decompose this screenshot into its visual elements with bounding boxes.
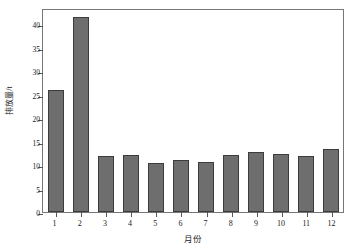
bar[interactable] <box>98 156 114 212</box>
x-tick-label: 1 <box>43 219 67 228</box>
x-tick-mark <box>106 212 107 217</box>
x-tick-label: 10 <box>269 219 293 228</box>
x-tick-label: 8 <box>219 219 243 228</box>
x-tick-mark <box>181 212 182 217</box>
x-tick-label: 2 <box>68 219 92 228</box>
bar-slot <box>168 10 193 212</box>
bar-slot <box>68 10 93 212</box>
x-tick-label: 12 <box>319 219 343 228</box>
bar-slot <box>268 10 293 212</box>
bar-slot <box>293 10 318 212</box>
x-tick-mark <box>332 212 333 217</box>
y-tick-label: 20 <box>33 115 41 124</box>
y-tick-label: 15 <box>33 139 41 148</box>
bar-chart-figure: 排放量/t 0510152025303540 123456789101112 月… <box>0 0 355 249</box>
x-tick-label: 6 <box>168 219 192 228</box>
bar-slot <box>43 10 68 212</box>
bar[interactable] <box>148 163 164 212</box>
bar[interactable] <box>173 160 189 212</box>
x-tick-mark <box>257 212 258 217</box>
bar-slot <box>118 10 143 212</box>
x-tick-label: 4 <box>118 219 142 228</box>
y-tick-label: 0 <box>36 209 40 218</box>
x-tick-mark <box>156 212 157 217</box>
x-tick-label: 11 <box>294 219 318 228</box>
y-tick-label: 5 <box>36 186 40 195</box>
y-tick-label: 30 <box>33 68 41 77</box>
x-tick-label: 3 <box>93 219 117 228</box>
bar[interactable] <box>198 162 214 212</box>
bar[interactable] <box>273 154 289 212</box>
x-tick-label: 9 <box>244 219 268 228</box>
bar-slot <box>218 10 243 212</box>
x-tick-mark <box>56 212 57 217</box>
x-tick-mark <box>232 212 233 217</box>
x-tick-label: 5 <box>143 219 167 228</box>
bar-slot <box>193 10 218 212</box>
bar[interactable] <box>48 90 64 212</box>
bar-series <box>43 10 343 212</box>
bar-slot <box>143 10 168 212</box>
x-tick-mark <box>207 212 208 217</box>
x-tick-mark <box>131 212 132 217</box>
y-tick-label: 35 <box>33 45 41 54</box>
x-tick-mark <box>81 212 82 217</box>
x-tick-mark <box>307 212 308 217</box>
y-tick-label: 10 <box>33 162 41 171</box>
bar[interactable] <box>323 149 339 212</box>
y-tick-label: 25 <box>33 92 41 101</box>
bar[interactable] <box>223 155 239 212</box>
plot-area: 0510152025303540 <box>42 9 344 213</box>
x-axis-title: 月份 <box>42 232 344 244</box>
y-tick-label: 40 <box>33 21 41 30</box>
bar[interactable] <box>248 152 264 212</box>
x-tick-label: 7 <box>194 219 218 228</box>
plot-inner: 0510152025303540 <box>43 10 343 212</box>
x-tick-mark <box>282 212 283 217</box>
bar[interactable] <box>73 17 89 212</box>
bar-slot <box>318 10 343 212</box>
y-axis-title: 排放量/t <box>3 56 14 146</box>
bar[interactable] <box>298 156 314 212</box>
bar-slot <box>93 10 118 212</box>
bar-slot <box>243 10 268 212</box>
bar[interactable] <box>123 155 139 212</box>
